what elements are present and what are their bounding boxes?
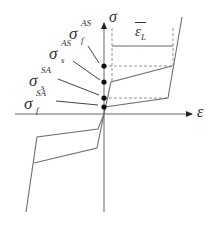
label-sigma-s-SA: σ SA s [29, 72, 37, 89]
label-sigma-s-AS: σ AS s [49, 45, 57, 62]
compression-hysteresis-loop [26, 114, 104, 212]
sma-stress-strain-diagram: σ ε εL σ AS f σ AS s σ SA s σ SA f [0, 0, 218, 225]
dot-sigma-s-SA [101, 95, 106, 100]
dot-sigma-f-SA [101, 104, 106, 109]
dot-sigma-s-AS [101, 79, 106, 84]
dot-sigma-f-AS [101, 63, 106, 68]
strain-axis-label: ε [197, 104, 203, 120]
transformation-strain-label: εL [135, 22, 146, 39]
label-sigma-f-SA: σ SA f [24, 95, 32, 112]
diagram-graphics [0, 0, 218, 225]
stress-axis-label: σ [109, 9, 117, 25]
